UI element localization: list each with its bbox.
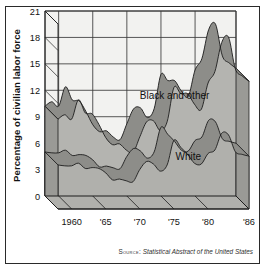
figure-container: Percentage of civilian labor force 03691…	[0, 0, 265, 268]
area-chart: 0369121518211960'65'70'75'80'86Black and…	[6, 7, 259, 239]
y-tick-label: 3	[35, 165, 40, 175]
y-tick-label: 21	[30, 7, 40, 17]
y-tick-label: 12	[30, 86, 40, 96]
x-tick-label: 1960	[61, 217, 81, 227]
series-annotation: White	[175, 151, 201, 162]
x-tick-label: '65	[100, 217, 112, 227]
y-tick-label: 0	[35, 192, 40, 202]
x-tick-label: '80	[202, 217, 214, 227]
source-caption: Source: Statistical Abstract of the Unit…	[6, 248, 253, 255]
series-annotation: Black and other	[140, 90, 210, 101]
x-tick-label: '70	[134, 217, 146, 227]
figure-frame: Percentage of civilian labor force 03691…	[5, 6, 260, 264]
source-label: Source:	[118, 248, 141, 255]
source-title: Statistical Abstract of the United State…	[143, 248, 253, 255]
y-tick-label: 9	[35, 112, 40, 122]
chart-plot-area: 0369121518211960'65'70'75'80'86Black and…	[6, 7, 259, 239]
x-tick-label: '75	[168, 217, 180, 227]
y-tick-label: 15	[30, 59, 40, 69]
x-tick-label: '86	[243, 217, 255, 227]
y-tick-label: 18	[30, 33, 40, 43]
y-tick-label: 6	[35, 139, 40, 149]
